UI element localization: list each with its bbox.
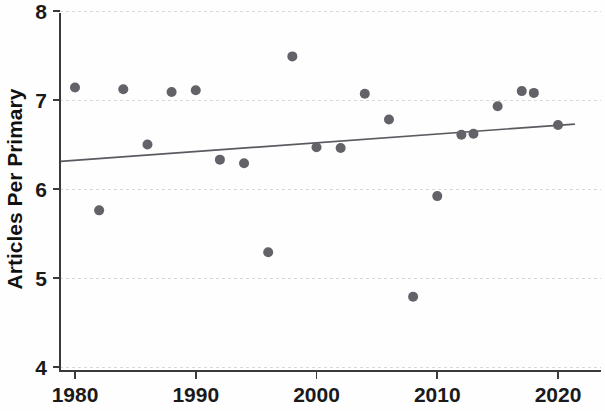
plot-canvas: 19801990200020102020 45678 Articles Per … <box>0 0 605 411</box>
data-point <box>167 87 177 97</box>
x-tick-labels-group: 19801990200020102020 <box>52 383 582 406</box>
data-point <box>517 86 527 96</box>
y-axis-title: Articles Per Primary <box>3 88 26 289</box>
y-axis-title-group: Articles Per Primary <box>3 88 26 289</box>
y-tick-label: 6 <box>35 178 47 201</box>
y-tick-label: 7 <box>35 89 47 112</box>
data-point <box>384 115 394 125</box>
data-point <box>456 130 466 140</box>
data-point <box>118 84 128 94</box>
data-point <box>142 140 152 150</box>
data-point <box>468 129 478 139</box>
y-tick-label: 4 <box>35 356 47 379</box>
data-point <box>215 155 225 165</box>
x-tick-label: 1990 <box>172 383 219 406</box>
data-point <box>408 292 418 302</box>
data-point <box>70 83 80 93</box>
data-point <box>239 158 249 168</box>
data-point <box>529 88 539 98</box>
data-point <box>336 143 346 153</box>
y-tick-labels-group: 45678 <box>35 0 47 379</box>
data-point <box>493 101 503 111</box>
data-markers-group <box>70 51 563 301</box>
data-point <box>432 191 442 201</box>
data-point <box>191 85 201 95</box>
x-tick-label: 2010 <box>414 383 461 406</box>
data-point <box>553 120 563 130</box>
x-tick-label: 2000 <box>293 383 340 406</box>
data-point <box>94 205 104 215</box>
x-tick-label: 2020 <box>535 383 582 406</box>
y-tick-label: 5 <box>35 267 47 290</box>
gridlines-group <box>60 11 601 367</box>
data-point <box>360 89 370 99</box>
scatter-plot-figure: 19801990200020102020 45678 Articles Per … <box>0 0 605 411</box>
tick-marks-group <box>53 11 558 379</box>
x-tick-label: 1980 <box>52 383 99 406</box>
data-point <box>312 142 322 152</box>
data-point <box>263 247 273 257</box>
data-point <box>287 51 297 61</box>
axis-spine <box>60 13 601 371</box>
y-tick-label: 8 <box>35 0 47 23</box>
axes-group <box>60 13 601 371</box>
